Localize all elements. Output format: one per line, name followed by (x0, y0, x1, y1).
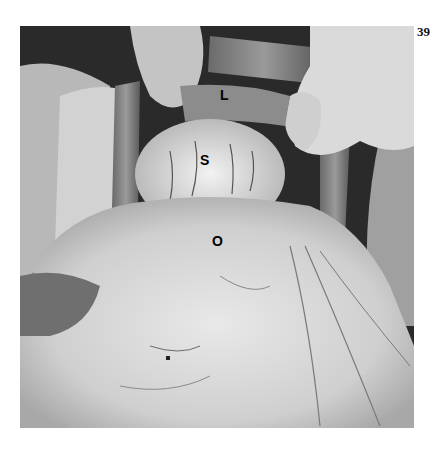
page-number: 39 (417, 24, 430, 40)
surgical-photograph (20, 26, 414, 428)
label-stomach: S (200, 152, 209, 168)
label-liver: L (220, 87, 229, 103)
label-omentum: O (212, 233, 223, 249)
